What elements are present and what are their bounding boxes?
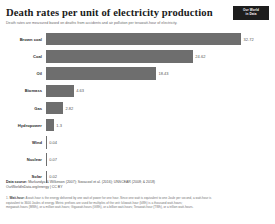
bar-row[interactable]: Coal24.62 [6,49,269,64]
bar[interactable] [46,50,193,62]
bar-value-label: 2.82 [65,106,73,111]
bar-category-label: Brown coal [6,37,46,42]
chart-page: Death rates per unit of electricity prod… [0,0,275,224]
bar-category-label: Nuclear [6,157,46,162]
bar-value-label: 1.3 [56,123,62,128]
bar-track: 4.63 [46,84,269,99]
footnote-term: Watt-hour: [9,196,24,200]
bar[interactable] [46,119,54,131]
bar-category-label: Solar [6,174,46,179]
chart-header: Death rates per unit of electricity prod… [6,7,269,25]
bar-row[interactable]: Wind0.04 [6,135,269,150]
bar[interactable] [46,153,47,165]
bar-track: 1.3 [46,118,269,133]
bar-track: 24.62 [46,49,269,64]
bar-category-label: Coal [6,54,46,59]
bar-category-label: Oil [6,71,46,76]
footnote-text-3: megawatt-hours (MWh), or a million watt-… [6,205,269,210]
bar-category-label: Hydropower [6,123,46,128]
bar[interactable] [46,136,47,148]
bar[interactable] [46,33,241,45]
bar-track: 2.82 [46,101,269,116]
bar-row[interactable]: Oil18.43 [6,66,269,81]
bar-row[interactable]: Nuclear0.07 [6,152,269,167]
bar[interactable] [46,85,74,97]
data-source-text: Markandya & Wilkinson (2007); Sovacool e… [28,180,155,184]
bar-value-label: 4.63 [76,88,84,93]
bar-track: 18.43 [46,66,269,81]
footnote: 1. Watt-hour: A watt-hour is the energy … [6,196,269,210]
chart-subtitle: Death rates are measured based on deaths… [6,21,269,25]
bar-category-label: Gas [6,106,46,111]
bar-track: 0.07 [46,152,269,167]
bar-row[interactable]: Brown coal32.72 [6,32,269,47]
bar-value-label: 24.62 [195,54,205,59]
bar-value-label: 0.02 [49,174,57,179]
owid-logo[interactable]: Our World in Data [233,6,269,20]
footnote-text-1: A watt-hour is the energy delivered by o… [25,196,211,200]
bar[interactable] [46,102,63,114]
bar-category-label: Wind [6,140,46,145]
bar-value-label: 18.43 [158,71,168,76]
bar-row[interactable]: Hydropower1.3 [6,118,269,133]
bar-track: 32.72 [46,32,269,47]
license-line[interactable]: OurWorldInData.org/energy | CC BY [6,185,269,190]
bar-value-label: 0.07 [49,157,57,162]
owid-logo-line2: in Data [245,13,256,17]
bar-value-label: 0.04 [49,140,57,145]
data-source-prefix: Data source: [6,180,27,184]
bar-chart: Brown coal32.72Coal24.62Oil18.43Biomass4… [6,32,269,184]
bar-value-label: 32.72 [244,37,254,42]
bar-row[interactable]: Biomass4.63 [6,84,269,99]
bar-row[interactable]: Gas2.82 [6,101,269,116]
bar-track: 0.04 [46,135,269,150]
bar[interactable] [46,67,156,79]
page-title: Death rates per unit of electricity prod… [6,7,269,19]
bar-category-label: Biomass [6,88,46,93]
chart-footer: Data source: Markandya & Wilkinson (2007… [6,180,269,210]
